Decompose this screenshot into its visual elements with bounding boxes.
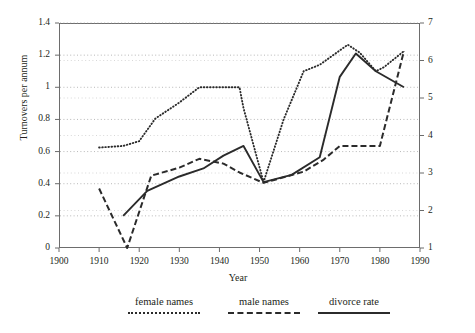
y-tick-label-right: 6: [428, 56, 458, 66]
x-tick-label: 1930: [159, 257, 199, 267]
y-tick-label-right: 4: [428, 131, 458, 141]
x-tick-label: 1970: [320, 257, 360, 267]
data-series-layer: [0, 0, 475, 333]
y-tick-label-left: 1.4: [20, 18, 50, 28]
y-axis-left-label: Turnovers per annum: [18, 28, 29, 168]
legend-swatch-dotted: [128, 312, 200, 317]
x-tick-label: 1980: [360, 257, 400, 267]
x-tick-label: 1940: [199, 257, 239, 267]
chart-legend: female namesmale namesdivorce rate: [0, 296, 475, 330]
x-tick-label: 1910: [79, 257, 119, 267]
legend-item-female-names[interactable]: female names: [128, 296, 200, 317]
chart-figure: 00.20.40.60.811.21.4 1234567 19001910192…: [0, 0, 475, 333]
y-tick-label-right: 2: [428, 206, 458, 216]
x-axis-label: Year: [198, 272, 278, 283]
x-tick-label: 1990: [400, 257, 440, 267]
legend-label: male names: [228, 296, 300, 308]
legend-item-divorce-rate[interactable]: divorce rate: [318, 296, 390, 317]
legend-item-male-names[interactable]: male names: [228, 296, 300, 317]
y-tick-label-left: 0: [20, 243, 50, 253]
y-tick-label-right: 5: [428, 93, 458, 103]
x-tick-label: 1920: [119, 257, 159, 267]
y-tick-label-right: 1: [428, 243, 458, 253]
y-tick-label-left: 0.4: [20, 179, 50, 189]
legend-label: divorce rate: [318, 296, 390, 308]
x-tick-label: 1900: [39, 257, 79, 267]
series-line-divorce-rate: [123, 54, 404, 216]
y-tick-label-left: 0.2: [20, 211, 50, 221]
x-tick-label: 1950: [240, 257, 280, 267]
y-tick-label-right: 3: [428, 168, 458, 178]
series-line-male-names: [99, 51, 404, 248]
y-tick-label-right: 7: [428, 18, 458, 28]
legend-swatch-solid: [318, 312, 390, 317]
legend-swatch-dashed: [228, 312, 300, 317]
legend-label: female names: [128, 296, 200, 308]
x-tick-label: 1960: [280, 257, 320, 267]
